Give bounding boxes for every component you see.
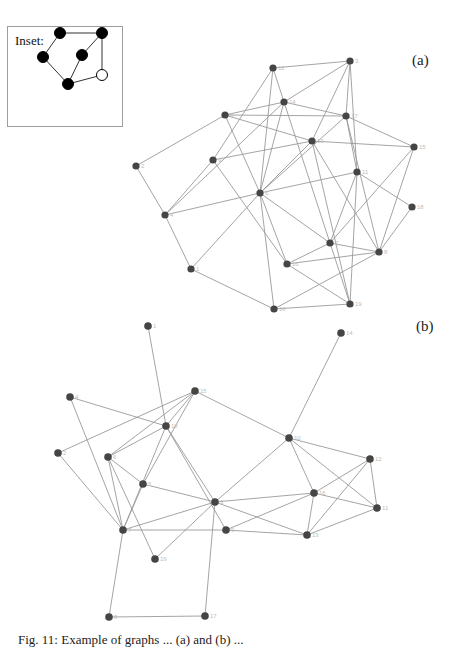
node-label: 15 [419,144,426,150]
graph-node [408,203,415,210]
graph-edge [330,172,357,243]
graph-node [54,449,62,457]
graph-node [144,322,152,330]
graph-edge [289,438,314,493]
graph-edge [350,172,357,304]
node-label: 12 [278,65,285,71]
node-label: 3 [220,499,224,505]
graph-node [201,612,209,620]
graph-edge [260,68,273,193]
graph-node [104,453,112,461]
panel-b-label: (b) [416,318,434,335]
graph-edge [225,115,346,116]
node-label: 3 [355,58,359,64]
graph-edge [260,141,312,193]
graph-edge [191,269,274,309]
node-label: 12 [375,456,382,462]
node-label: 19 [160,556,167,562]
graph-node [211,498,219,506]
graph-edge [213,141,312,160]
graph-node [119,526,127,534]
node-label: 14 [289,99,296,105]
graph-edge [136,166,165,215]
inset-node [97,70,108,81]
graph-node [209,156,216,163]
graph-node [256,189,263,196]
node-label: 9 [218,157,222,163]
graph-node [285,434,293,442]
graph-edge [260,193,330,243]
figure-caption: Fig. 11: Example of graphs ... (a) and (… [18,632,244,648]
graph-edge [312,141,379,252]
graph-edge [215,493,314,502]
graph-b-nodes: 14151826101412531611791319817 [54,322,389,621]
node-label: 7 [335,240,339,246]
graph-edge [289,438,370,459]
inset-box: Inset: [7,26,123,127]
graph-node [366,455,374,463]
graph-edge [108,457,123,530]
graph-edge [289,333,341,438]
inset-title: Inset: [15,33,44,49]
node-label: 17 [210,613,217,619]
graph-edge [330,147,414,243]
graph-node [326,239,333,246]
node-label: 11 [382,505,389,511]
node-label: 1 [153,323,157,329]
graph-edge [109,616,205,617]
node-label: 18 [417,204,424,210]
graph-edge [215,438,289,502]
node-label: 15 [200,388,207,394]
graph-node [139,480,147,488]
inset-node [38,52,49,63]
graph-node [303,531,311,539]
graph-node [105,613,113,621]
graph-edge [370,459,377,508]
graph-node [280,98,287,105]
graph-edge [307,459,370,535]
node-label: 2 [63,450,67,456]
graph-edge [274,252,379,309]
node-label: 16 [292,261,299,267]
graph-node [221,111,228,118]
graph-node [310,489,318,497]
graph-edge [165,160,213,215]
graph-edge [379,207,412,252]
graph-edge [226,493,314,530]
node-label: 9 [231,527,235,533]
graph-edge [165,193,260,215]
graph-edge [143,391,195,484]
node-label: 14 [346,330,353,336]
graph-node [337,329,345,337]
graph-edge [195,391,289,438]
graph-edge [123,502,215,530]
node-label: 1 [196,266,200,272]
graph-a-nodes: 12314517131592611184781611019 [132,57,426,312]
graph-edge [312,141,350,304]
node-label: 6 [113,454,117,460]
graph-edge [108,426,166,457]
graph-edge [109,530,123,617]
node-label: 11 [362,169,369,175]
node-label: 10 [294,435,301,441]
graph-edge [166,391,195,426]
graph-node [283,260,290,267]
node-label: 19 [355,301,362,307]
graph-node [162,422,170,430]
graph-node [222,526,230,534]
graph-node [151,555,159,563]
graph-edge [165,215,191,269]
node-label: 17 [351,113,358,119]
graph-edge [205,502,215,616]
graph-edge [225,115,312,141]
graph-edge [70,397,123,530]
graph-edge [273,68,284,102]
node-label: 18 [171,423,178,429]
graph-edge [213,160,287,264]
graph-b-edges [58,326,377,617]
graph-edge [70,397,166,426]
graph-edge [260,116,346,193]
graph-edge [346,116,414,147]
inset-node [97,28,108,39]
graph-edge [108,457,143,484]
